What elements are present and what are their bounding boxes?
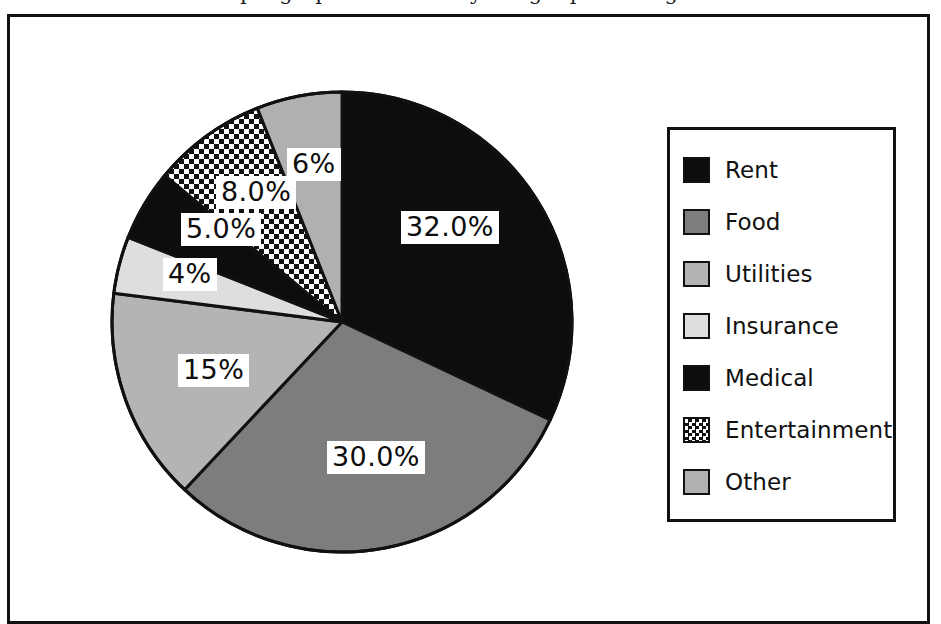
slice-label-rent: 32.0% [401, 211, 499, 244]
legend-label-rent: Rent [725, 157, 778, 183]
legend-item-utilities[interactable]: Utilities [683, 248, 893, 300]
legend-swatch-utilities [683, 261, 710, 287]
slice-label-insurance: 4% [163, 258, 217, 291]
legend-item-medical[interactable]: Medical [683, 352, 893, 404]
legend-item-entertainment[interactable]: Entertainment [683, 404, 893, 456]
legend: Rent Food Utilities Insurance Medical En… [667, 127, 896, 522]
figure-frame: 32.0% 30.0% 15% 4% 5.0% 8.0% 6% Rent Foo… [7, 14, 930, 624]
slice-label-food: 30.0% [327, 441, 425, 474]
legend-swatch-food [683, 209, 710, 235]
legend-swatch-medical [683, 365, 710, 391]
pie-chart [109, 89, 575, 555]
slice-label-entertainment: 8.0% [216, 176, 296, 209]
legend-item-rent[interactable]: Rent [683, 144, 893, 196]
legend-item-insurance[interactable]: Insurance [683, 300, 893, 352]
slice-label-utilities: 15% [178, 354, 249, 387]
legend-swatch-entertainment [683, 417, 710, 443]
legend-swatch-other [683, 469, 710, 495]
pie-slice-group [112, 92, 572, 552]
legend-swatch-rent [683, 157, 710, 183]
legend-swatch-insurance [683, 313, 710, 339]
clipped-title-text: pie graph of a monthly budget percentage… [0, 0, 941, 5]
legend-item-other[interactable]: Other [683, 456, 893, 508]
slice-label-medical: 5.0% [181, 213, 261, 246]
legend-label-insurance: Insurance [725, 313, 839, 339]
slice-label-other: 6% [287, 148, 341, 181]
legend-label-other: Other [725, 469, 791, 495]
pie-chart-svg [109, 89, 575, 555]
clipped-title-strip: pie graph of a monthly budget percentage… [0, 0, 941, 13]
legend-label-entertainment: Entertainment [725, 417, 892, 443]
legend-label-food: Food [725, 209, 781, 235]
legend-item-food[interactable]: Food [683, 196, 893, 248]
legend-label-medical: Medical [725, 365, 814, 391]
legend-label-utilities: Utilities [725, 261, 812, 287]
